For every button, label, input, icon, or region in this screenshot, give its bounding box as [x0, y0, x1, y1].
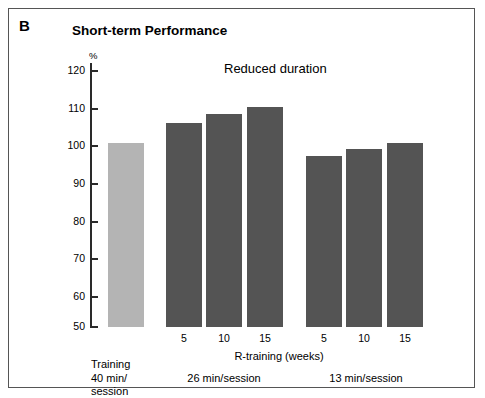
plot-area: % 120 110 100 90 80 70 60 50 5101551015 …	[9, 9, 476, 389]
group-caption-training: Training 40 min/ session	[91, 358, 157, 398]
bar	[247, 107, 283, 327]
bars-layer: 5101551015	[9, 9, 476, 389]
x-axis-tick-label: 10	[346, 333, 382, 344]
figure-panel: B Short-term Performance Reduced duratio…	[8, 8, 475, 388]
bar	[387, 143, 423, 327]
bar	[206, 114, 242, 327]
x-axis-title: R-training (weeks)	[199, 350, 359, 362]
x-axis-tick-label: 5	[166, 333, 202, 344]
x-axis-tick-label: 15	[387, 333, 423, 344]
group-caption-line: Training	[91, 358, 157, 372]
group-caption-line: session	[91, 385, 157, 398]
group-caption-13min: 13 min/session	[301, 372, 431, 386]
bar	[306, 156, 342, 327]
group-caption-26min: 26 min/session	[159, 372, 289, 386]
x-axis-tick-label: 5	[306, 333, 342, 344]
bar	[346, 149, 382, 327]
bar	[166, 123, 202, 327]
group-caption-line: 40 min/	[91, 372, 157, 386]
bar	[108, 143, 144, 327]
x-axis-tick-label: 15	[247, 333, 283, 344]
x-axis-tick-label: 10	[206, 333, 242, 344]
